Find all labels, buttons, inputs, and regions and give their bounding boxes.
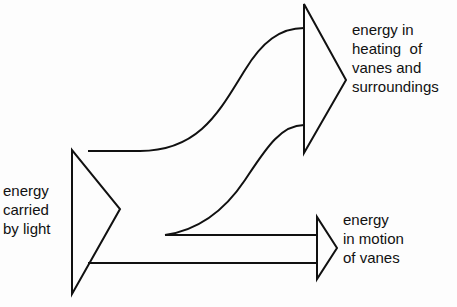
source-label-line: carried: [3, 200, 51, 219]
source-label-line: by light: [3, 219, 51, 238]
energy-flow-diagram: energycarriedby light energy inheating o…: [0, 0, 457, 307]
heating-band-upper-edge: [88, 28, 304, 151]
heating-label-line: surroundings: [352, 77, 439, 96]
source-triangle: [72, 150, 120, 294]
motion-arrowhead: [317, 217, 337, 279]
motion-label-line: of vanes: [343, 248, 404, 267]
heating-label-line: energy in: [352, 20, 439, 39]
source-label-line: energy: [3, 181, 51, 200]
heating-label: energy inheating ofvanes andsurroundings: [352, 20, 439, 96]
heating-label-line: vanes and: [352, 58, 439, 77]
heating-label-line: heating of: [352, 39, 439, 58]
motion-label: energyin motionof vanes: [343, 210, 404, 267]
source-label: energycarriedby light: [3, 181, 51, 238]
heating-band-lower-edge: [165, 125, 304, 235]
motion-label-line: energy: [343, 210, 404, 229]
motion-label-line: in motion: [343, 229, 404, 248]
heating-arrowhead: [304, 4, 346, 153]
